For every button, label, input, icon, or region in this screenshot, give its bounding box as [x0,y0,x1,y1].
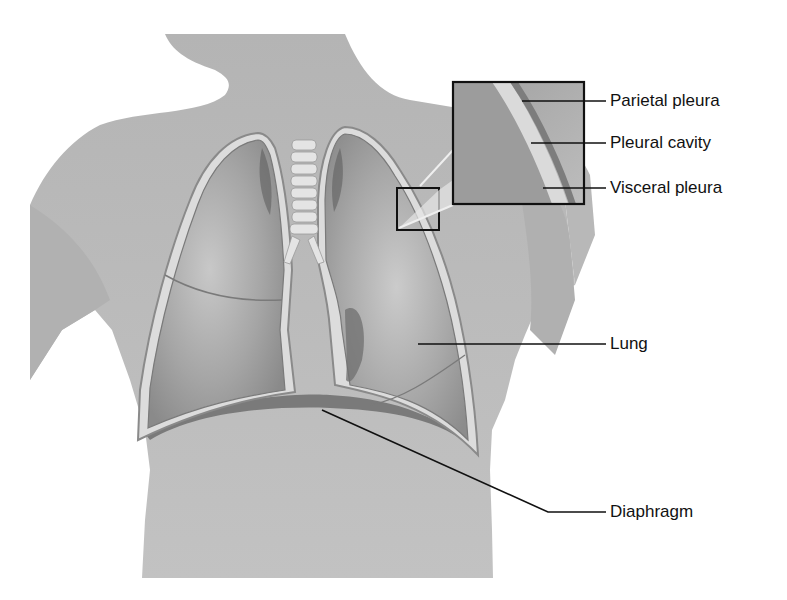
label-diaphragm: Diaphragm [610,502,693,522]
label-pleural-cavity: Pleural cavity [610,133,711,153]
label-parietal-pleura: Parietal pleura [610,91,720,111]
label-lung: Lung [610,334,648,354]
label-visceral-pleura: Visceral pleura [610,178,722,198]
anatomy-figure: Parietal pleura Pleural cavity Visceral … [0,0,787,600]
